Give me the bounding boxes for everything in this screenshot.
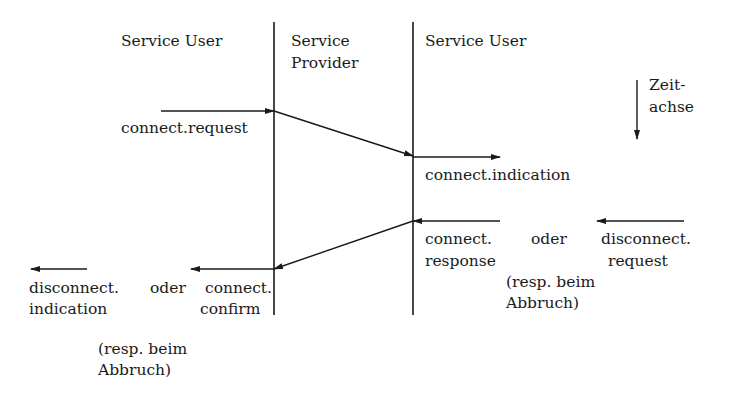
column-header-service-user-right: Service User xyxy=(425,32,526,51)
label-left-note-line2: Abbruch) xyxy=(98,361,171,380)
label-left-note-line1: (resp. beim xyxy=(98,340,187,359)
label-connect-confirm-line2: confirm xyxy=(200,300,260,319)
label-connect-request: connect.request xyxy=(121,119,248,138)
label-connect-response-line1: connect. xyxy=(425,230,492,249)
provider-forward-arrow xyxy=(274,111,413,156)
label-disconnect-request-line1: disconnect. xyxy=(601,230,691,249)
label-disconnect-request-line2: request xyxy=(608,252,668,271)
label-right-note-line2: Abbruch) xyxy=(506,294,579,313)
label-right-note-line1: (resp. beim xyxy=(506,273,595,292)
label-disconnect-indication-line2: indication xyxy=(29,300,107,319)
column-header-service-user-left: Service User xyxy=(121,32,222,51)
label-connect-confirm-line1: connect. xyxy=(205,279,272,298)
label-connect-indication: connect.indication xyxy=(425,166,570,185)
label-oder-right: oder xyxy=(531,230,567,249)
provider-backward-arrow xyxy=(274,221,413,269)
label-connect-response-line2: response xyxy=(425,252,496,271)
column-header-service-provider-line2: Provider xyxy=(291,54,358,73)
column-header-service-provider-line1: Service xyxy=(291,32,350,51)
label-oder-left: oder xyxy=(150,279,186,298)
label-disconnect-indication-line1: disconnect. xyxy=(29,279,119,298)
time-axis-label-line1: Zeit- xyxy=(649,76,685,95)
time-axis-label-line2: achse xyxy=(649,98,694,117)
